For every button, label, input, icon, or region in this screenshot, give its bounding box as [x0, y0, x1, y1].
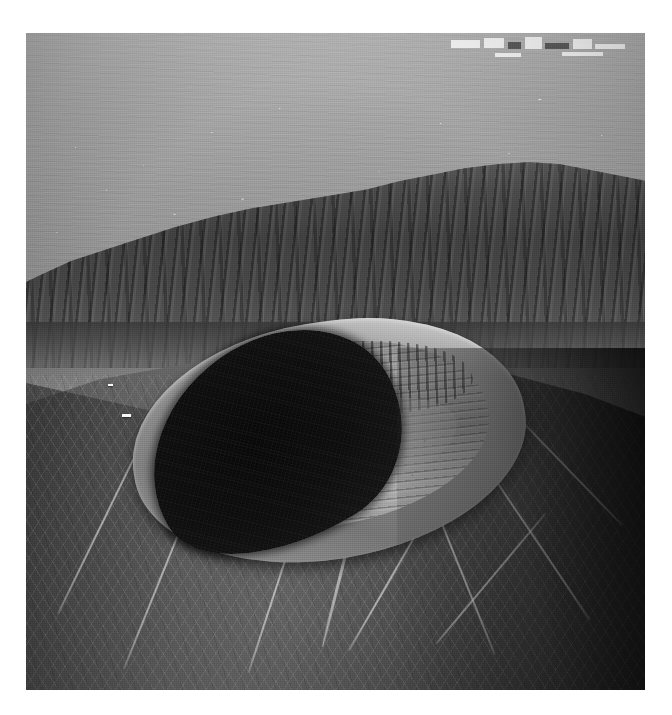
summit-building [108, 384, 113, 386]
summit-building [122, 414, 131, 417]
summit-buildings [26, 33, 645, 690]
aerial-photograph [26, 33, 645, 690]
page-root [0, 0, 672, 715]
